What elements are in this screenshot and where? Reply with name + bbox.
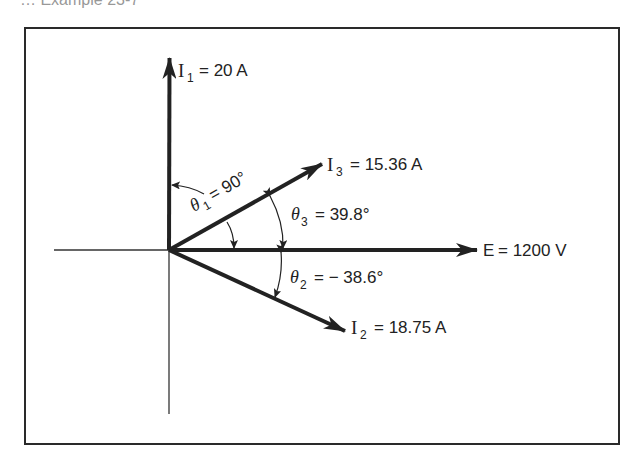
svg-text:I: I <box>351 317 357 338</box>
svg-text:I: I <box>327 154 333 175</box>
svg-text:θ: θ <box>290 267 299 287</box>
theta1-arc-upper <box>172 185 204 194</box>
svg-text:= 90°: = 90° <box>206 168 250 205</box>
label-theta3: θ 3 = 39.8° <box>291 204 370 229</box>
svg-text:E: E <box>483 241 494 260</box>
theta2-arc <box>275 252 281 297</box>
svg-text:= − 38.6°: = − 38.6° <box>314 268 383 287</box>
theta1-arc-lower <box>227 222 234 248</box>
label-I2: I 2 = 18.75 A <box>351 317 447 342</box>
svg-text:2: 2 <box>360 328 367 342</box>
svg-text:θ: θ <box>291 204 300 224</box>
phasor-diagram: I 1 = 20 A I 3 = 15.36 A E = 1200 V I 2 … <box>0 0 639 465</box>
theta3-arc <box>270 196 283 248</box>
svg-text:= 20 A: = 20 A <box>199 61 248 80</box>
label-theta2: θ 2 = − 38.6° <box>290 267 383 292</box>
phasor-I2 <box>169 250 345 331</box>
svg-text:3: 3 <box>336 165 343 179</box>
label-I3: I 3 = 15.36 A <box>327 154 423 179</box>
svg-text:3: 3 <box>301 215 308 229</box>
svg-text:θ: θ <box>186 194 204 216</box>
svg-text:= 39.8°: = 39.8° <box>315 205 370 224</box>
svg-text:1: 1 <box>187 71 194 85</box>
svg-text:I: I <box>178 60 184 81</box>
svg-text:= 15.36 A: = 15.36 A <box>350 155 423 174</box>
svg-text:= 1200 V: = 1200 V <box>498 241 567 260</box>
svg-text:= 18.75 A: = 18.75 A <box>374 318 447 337</box>
svg-text:2: 2 <box>300 278 307 292</box>
label-I1: I 1 = 20 A <box>178 60 248 85</box>
label-E: E = 1200 V <box>483 241 567 260</box>
phasor-I1 <box>169 58 170 250</box>
